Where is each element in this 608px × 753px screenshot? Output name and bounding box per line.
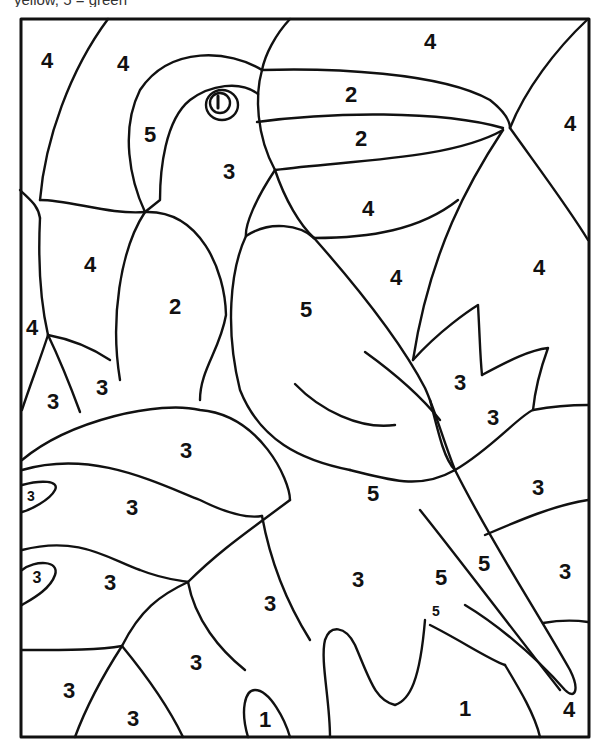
region-label-branch-big: 1 [459, 696, 471, 721]
region-label-sky-right: 4 [564, 111, 577, 136]
region-label-chest: 2 [169, 294, 181, 319]
region-label-beak-upper: 2 [345, 82, 357, 107]
wing-feather-2 [365, 352, 440, 420]
region-label-sky-under-beak: 4 [362, 196, 375, 221]
tail-bottom-curve [505, 665, 540, 737]
region-label-tail-small: 5 [432, 603, 440, 619]
region-label-sky-center-right: 4 [390, 265, 403, 290]
coloring-page: 44422453442544433333335333335535333114 [0, 0, 608, 753]
left-down [22, 335, 48, 410]
region-label-sky-far-right: 4 [533, 255, 546, 280]
beak-bottom [275, 130, 503, 170]
region-label-leaf-tiny-2: 3 [33, 569, 42, 586]
chest-right [145, 212, 226, 400]
tail-left [420, 510, 560, 690]
region-label-leaf-right-2: 3 [487, 405, 499, 430]
region-label-leaf-right-3: 3 [532, 475, 544, 500]
beak-top [262, 70, 510, 128]
leaf-right-b [482, 348, 548, 410]
leaf-right-f [543, 621, 588, 623]
region-label-leaf-right-4: 3 [559, 559, 571, 584]
region-label-face: 3 [223, 159, 235, 184]
region-label-sky-left-edge: 4 [26, 315, 39, 340]
region-label-tail-mid-2: 5 [478, 551, 490, 576]
region-label-leaf-left-2: 3 [96, 375, 108, 400]
region-label-head-back: 5 [144, 122, 156, 147]
wing-feather-1 [295, 384, 395, 426]
sky-divider-center [413, 130, 503, 360]
region-label-leaf-bottom-1: 3 [190, 650, 202, 675]
sky-divider-right [510, 128, 588, 240]
leaf-right-e [485, 500, 588, 535]
region-label-leaf-big-1: 3 [180, 438, 192, 463]
region-label-wing: 5 [300, 297, 312, 322]
sky-arc-right [510, 19, 588, 128]
leaf-right-c [533, 405, 588, 410]
head-inner [145, 86, 258, 212]
sky-under-beak-curve [314, 200, 458, 238]
chest-left [116, 212, 145, 380]
region-label-sky-left-mid: 4 [84, 252, 97, 277]
tail-upper [350, 470, 455, 482]
region-label-leaf-center: 3 [264, 591, 276, 616]
region-label-tail-top: 5 [367, 481, 379, 506]
tail-inner [430, 625, 505, 665]
tail-right [455, 470, 575, 694]
sky-arc-upper [262, 19, 290, 70]
leaf-center-vein [188, 500, 290, 582]
region-label-leaf-left-1: 3 [47, 389, 59, 414]
sky-arc-left [40, 19, 108, 200]
region-label-beak-lower: 2 [355, 126, 367, 151]
eye-inner [210, 93, 230, 113]
region-label-leaf-tiny-1: 3 [27, 488, 35, 504]
region-label-leaf-big-2: 3 [126, 495, 138, 520]
region-label-sky-bottom-right: 4 [563, 697, 576, 722]
branch-large [324, 620, 425, 737]
region-label-tail-mid-1: 5 [435, 565, 447, 590]
leaf-lower-1 [22, 646, 122, 650]
leaf-lower-2 [122, 582, 188, 646]
leaf-lower-3 [75, 646, 122, 737]
left-split [39, 218, 48, 335]
head-top-curve [40, 200, 145, 212]
region-label-branch-small: 1 [259, 707, 271, 732]
region-label-sky-top: 4 [424, 29, 437, 54]
leaf-upper [22, 407, 290, 500]
leaf-mid-1 [22, 463, 262, 516]
leaf-center-2 [262, 516, 310, 640]
region-label-leaf-bottom-2: 3 [127, 706, 139, 731]
region-label-leaf-big-3: 3 [104, 570, 116, 595]
region-label-leaf-right-1: 3 [454, 370, 466, 395]
region-label-sky-top-left-2: 4 [117, 51, 130, 76]
region-label-sky-top-left: 4 [41, 48, 54, 73]
sky-left-lower [20, 190, 40, 218]
wing-outline [231, 236, 350, 470]
region-label-leaf-center-2: 3 [352, 567, 364, 592]
region-label-leaf-bottom-left: 3 [63, 678, 75, 703]
beak-middle [257, 114, 503, 128]
leaf-right-a [413, 305, 482, 375]
